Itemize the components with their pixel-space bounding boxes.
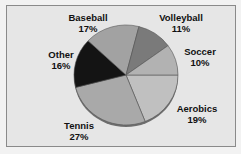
label-other-pct: 16% [44,60,78,71]
label-soccer-name: Soccer [180,46,220,57]
label-tennis: Tennis 27% [59,120,99,142]
label-volleyball-name: Volleyball [153,12,209,23]
label-baseball: Baseball 17% [66,12,110,34]
label-aerobics-name: Aerobics [172,103,222,114]
label-aerobics: Aerobics 19% [172,103,222,125]
label-aerobics-pct: 19% [172,114,222,125]
label-soccer-pct: 10% [180,57,220,68]
label-other-name: Other [44,49,78,60]
label-tennis-name: Tennis [59,120,99,131]
label-tennis-pct: 27% [59,131,99,142]
label-volleyball: Volleyball 11% [153,12,209,34]
label-baseball-pct: 17% [66,23,110,34]
label-other: Other 16% [44,49,78,71]
label-baseball-name: Baseball [66,12,110,23]
label-soccer: Soccer 10% [180,46,220,68]
label-volleyball-pct: 11% [153,23,209,34]
